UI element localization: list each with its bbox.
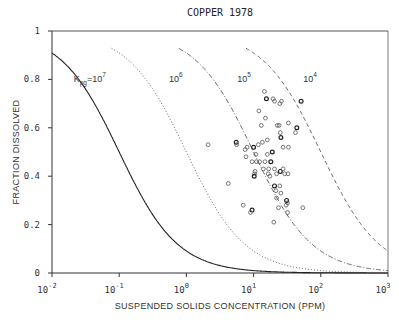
curve-label: Kpg=107 bbox=[74, 71, 107, 87]
data-point bbox=[279, 136, 283, 140]
data-point bbox=[226, 182, 230, 186]
data-point bbox=[244, 155, 248, 159]
data-point bbox=[250, 160, 254, 164]
data-point bbox=[287, 121, 291, 125]
data-point bbox=[257, 143, 261, 147]
data-point bbox=[274, 189, 278, 193]
data-point bbox=[264, 116, 268, 120]
curve-label: 104 bbox=[303, 71, 317, 84]
data-point bbox=[273, 167, 277, 171]
x-tick-label: 10-1 bbox=[105, 282, 124, 295]
curve-105 bbox=[179, 48, 388, 270]
data-point bbox=[270, 150, 274, 154]
y-tick-label: 0.2 bbox=[24, 220, 40, 230]
data-point bbox=[241, 203, 245, 207]
data-point bbox=[265, 138, 269, 142]
data-point bbox=[281, 167, 285, 171]
scatter-points bbox=[206, 90, 304, 225]
x-axis-ticks: 10-210-1100101102103 bbox=[37, 273, 390, 295]
data-point bbox=[294, 131, 298, 135]
data-point bbox=[257, 109, 261, 113]
y-tick-label: 1 bbox=[35, 26, 40, 36]
data-point bbox=[278, 131, 282, 135]
data-point bbox=[262, 167, 266, 171]
data-point bbox=[252, 145, 256, 149]
data-point bbox=[301, 206, 305, 210]
curve-kpg107 bbox=[52, 53, 388, 273]
data-point bbox=[267, 167, 271, 171]
data-point bbox=[295, 126, 299, 130]
data-point bbox=[261, 140, 265, 144]
data-point bbox=[273, 184, 277, 188]
y-tick-label: 0.6 bbox=[24, 123, 40, 133]
data-point bbox=[272, 220, 276, 224]
data-point bbox=[278, 184, 282, 188]
y-tick-label: 0.8 bbox=[24, 74, 40, 84]
y-axis-label: FRACTION DISSOLVED bbox=[11, 99, 21, 204]
partition-curves bbox=[52, 48, 388, 273]
plot-area bbox=[52, 31, 388, 273]
x-tick-label: 103 bbox=[375, 282, 390, 295]
x-tick-label: 101 bbox=[241, 282, 256, 295]
data-point bbox=[265, 153, 269, 157]
data-point bbox=[299, 99, 303, 103]
data-point bbox=[263, 90, 267, 94]
x-tick-label: 10-2 bbox=[37, 282, 56, 295]
curve-label: 106 bbox=[169, 71, 183, 84]
data-point bbox=[269, 160, 273, 164]
y-tick-label: 0.4 bbox=[24, 171, 40, 181]
data-point bbox=[279, 191, 283, 195]
y-axis-ticks: 00.20.40.60.81 bbox=[24, 26, 52, 278]
curve-labels: Kpg=107106105104 bbox=[74, 71, 318, 87]
x-tick-label: 102 bbox=[308, 282, 323, 295]
data-point bbox=[275, 172, 279, 176]
data-point bbox=[287, 145, 291, 149]
data-point bbox=[259, 124, 263, 128]
data-point bbox=[281, 145, 285, 149]
curve-106 bbox=[112, 48, 388, 272]
data-point bbox=[285, 199, 289, 203]
chart: COPPER 1978 00.20.40.60.81 10-210-110010… bbox=[0, 0, 399, 323]
data-point bbox=[206, 143, 210, 147]
curve-label: 105 bbox=[237, 71, 251, 84]
data-point bbox=[277, 206, 281, 210]
chart-title: COPPER 1978 bbox=[187, 7, 253, 18]
data-point bbox=[286, 211, 290, 215]
data-point bbox=[263, 160, 267, 164]
y-tick-label: 0 bbox=[35, 268, 40, 278]
curve-104 bbox=[246, 48, 388, 251]
data-point bbox=[265, 97, 269, 101]
x-tick-label: 100 bbox=[174, 282, 189, 295]
x-axis-label: SUSPENDED SOLIDS CONCENTRATION (PPM) bbox=[115, 301, 326, 311]
